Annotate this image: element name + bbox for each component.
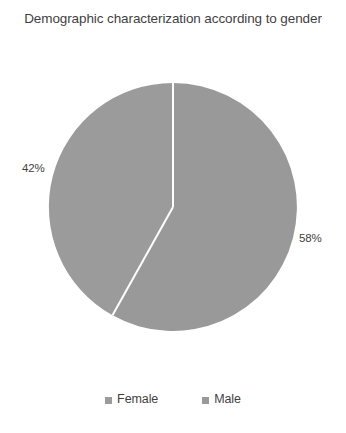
pie-chart-figure: Demographic characterization according t… bbox=[0, 0, 346, 433]
chart-legend: Female Male bbox=[0, 392, 346, 406]
legend-item-male[interactable]: Male bbox=[202, 392, 241, 406]
legend-label-male: Male bbox=[214, 392, 241, 406]
pie-plot-area bbox=[0, 70, 346, 360]
legend-item-female[interactable]: Female bbox=[105, 392, 158, 406]
square-marker-icon bbox=[105, 397, 112, 404]
data-label-male: 58% bbox=[299, 232, 321, 244]
pie-svg bbox=[0, 70, 346, 360]
chart-title: Demographic characterization according t… bbox=[12, 8, 334, 29]
square-marker-icon bbox=[202, 397, 209, 404]
data-label-female: 42% bbox=[22, 162, 44, 174]
legend-label-female: Female bbox=[117, 392, 158, 406]
